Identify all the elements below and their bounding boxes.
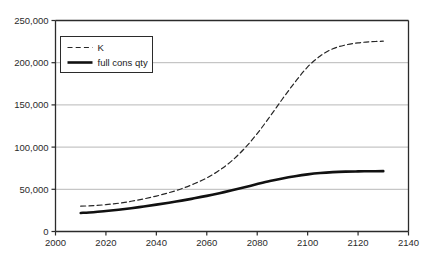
- x-tick-label-2060: 2060: [196, 237, 217, 248]
- x-tick-label-2120: 2120: [348, 237, 369, 248]
- line-chart: 050,000100,000150,000200,000250,000 2000…: [0, 0, 425, 257]
- x-tick-label-2040: 2040: [146, 237, 167, 248]
- legend-label-k: K: [98, 42, 105, 53]
- y-tick-label-150000: 150,000: [14, 99, 48, 110]
- x-tick-label-2100: 2100: [297, 237, 318, 248]
- y-tick-label-50000: 50,000: [19, 184, 48, 195]
- y-tick-label-0: 0: [43, 226, 48, 237]
- chart-container: 050,000100,000150,000200,000250,000 2000…: [0, 0, 425, 257]
- y-tick-label-100000: 100,000: [14, 142, 48, 153]
- chart-legend: Kfull cons qty: [61, 37, 153, 73]
- x-tick-label-2080: 2080: [247, 237, 268, 248]
- y-tick-label-250000: 250,000: [14, 15, 48, 26]
- y-tick-label-200000: 200,000: [14, 57, 48, 68]
- legend-label-full-cons-qty: full cons qty: [98, 57, 148, 68]
- x-tick-label-2140: 2140: [398, 237, 419, 248]
- x-tick-label-2020: 2020: [95, 237, 116, 248]
- x-tick-label-2000: 2000: [45, 237, 66, 248]
